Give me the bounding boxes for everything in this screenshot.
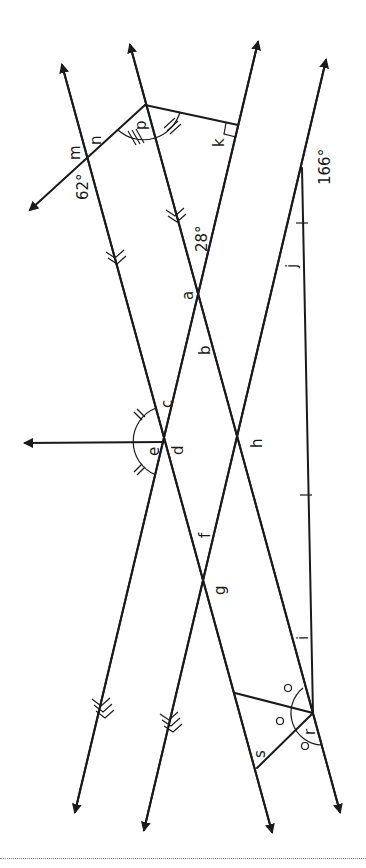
- label-28: 28°: [193, 225, 211, 252]
- label-s: s: [251, 750, 269, 758]
- label-62: 62°: [74, 173, 92, 200]
- segment-p-k: [145, 105, 238, 125]
- label-c: c: [158, 400, 176, 408]
- arc-r: [291, 688, 322, 745]
- segment-r-upper: [235, 693, 313, 713]
- tick-marks: [128, 118, 312, 495]
- label-d: d: [169, 445, 187, 455]
- label-f: f: [196, 532, 214, 538]
- circle-marks: [277, 685, 309, 750]
- label-m: m: [66, 145, 84, 160]
- label-a: a: [179, 291, 197, 300]
- label-i: i: [294, 636, 312, 640]
- label-j: j: [283, 264, 301, 269]
- label-r: r: [301, 728, 319, 735]
- dotted-border: [0, 858, 366, 859]
- label-h: h: [248, 438, 266, 448]
- segment-r-lower: [257, 713, 313, 768]
- geometry-diagram: m n 62° p k 28° 166° j a b c d e h f g i…: [0, 0, 366, 868]
- label-n: n: [87, 135, 105, 145]
- segment-i-j: [302, 168, 313, 713]
- label-p: p: [132, 120, 150, 130]
- label-k: k: [210, 138, 228, 147]
- label-g: g: [211, 585, 229, 595]
- ray-e: [25, 442, 165, 443]
- label-166: 166°: [316, 149, 334, 185]
- label-e: e: [145, 447, 163, 456]
- label-b: b: [196, 345, 214, 355]
